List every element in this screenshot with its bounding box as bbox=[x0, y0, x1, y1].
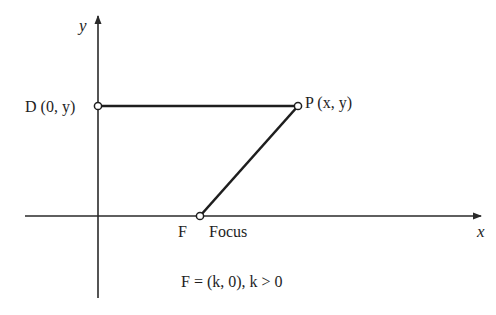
point-d bbox=[94, 102, 101, 109]
x-axis-label: x bbox=[476, 222, 485, 241]
point-d-label: D (0, y) bbox=[25, 98, 75, 116]
point-p bbox=[294, 102, 301, 109]
focus-label: Focus bbox=[209, 223, 247, 240]
point-f-label: F bbox=[178, 223, 187, 240]
parabola-diagram: y x D (0, y) P (x, y) F Focus F = (k, 0)… bbox=[0, 0, 496, 315]
caption: F = (k, 0), k > 0 bbox=[181, 273, 283, 291]
point-p-label: P (x, y) bbox=[305, 94, 352, 112]
segment-pf bbox=[200, 106, 298, 216]
y-axis-label: y bbox=[77, 16, 87, 35]
point-f bbox=[196, 212, 203, 219]
